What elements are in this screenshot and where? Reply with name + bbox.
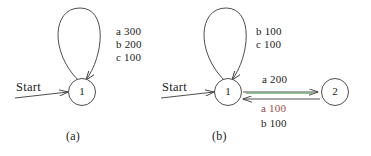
transition-label-2-to-1-1: b 100 (261, 117, 287, 130)
transition-label-1-to-2: a 200 (262, 73, 287, 86)
transition-edge-1-to-2 (243, 92, 318, 93)
self-loop-label-b-0: b 100 (256, 25, 282, 38)
self-loop-edge-a (58, 8, 100, 80)
panel-caption-a: (a) (66, 130, 80, 143)
state-label-b-2: 2 (328, 85, 342, 98)
panel-caption-b: (b) (212, 130, 227, 143)
start-label-a: Start (16, 81, 41, 94)
transition-label-2-to-1-0: a 100 (261, 102, 286, 115)
self-loop-label-a-2: c 100 (116, 51, 142, 64)
automata-figure: Start 1 a 300 b 200 c 100 (a) Start 1 2 … (0, 0, 371, 156)
self-loop-labels-a: a 300 b 200 c 100 (116, 25, 142, 64)
self-loop-labels-b: b 100 c 100 (256, 25, 282, 51)
start-label-b: Start (162, 81, 187, 94)
self-loop-label-a-1: b 200 (116, 38, 142, 51)
state-label-b-1: 1 (221, 85, 235, 98)
panel-b-graphics (161, 8, 349, 106)
self-loop-edge-b (204, 8, 246, 80)
self-loop-label-a-0: a 300 (116, 25, 142, 38)
self-loop-label-b-1: c 100 (256, 38, 282, 51)
state-label-a-1: 1 (75, 85, 89, 98)
figure-vector-layer (0, 0, 371, 156)
